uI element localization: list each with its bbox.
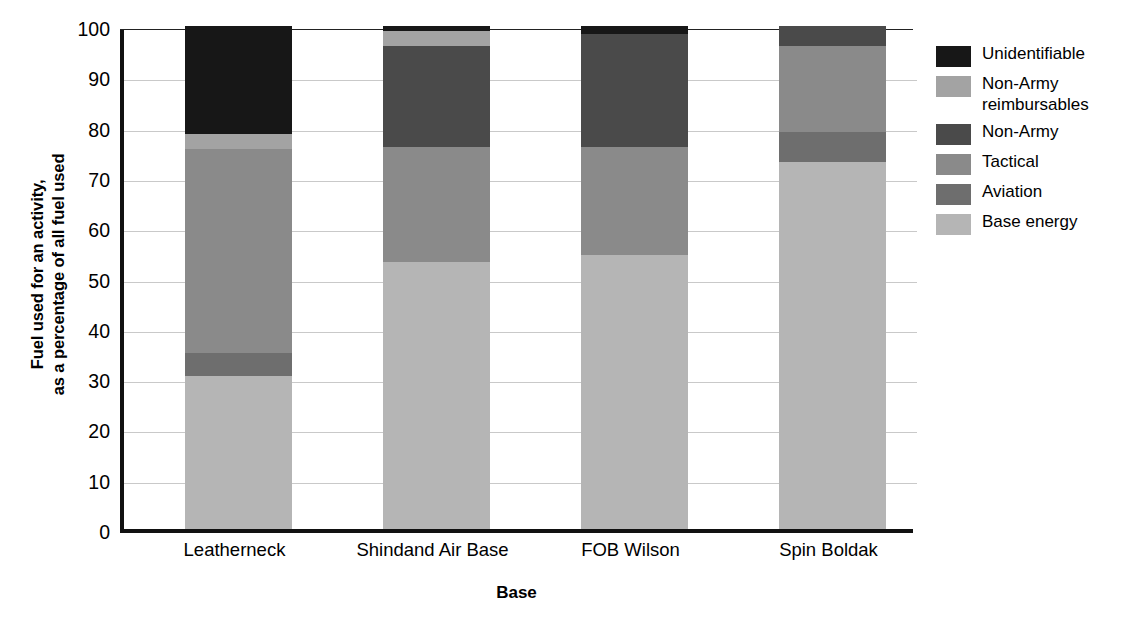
legend-swatch-icon [936, 214, 971, 235]
chart-legend: UnidentifiableNon-Army reimbursablesNon-… [936, 44, 1131, 242]
bar-segment-tactical[interactable] [383, 147, 490, 263]
bar-segment-unidentifiable[interactable] [581, 26, 688, 34]
bar-segment-base-energy[interactable] [185, 376, 292, 529]
y-tick-label: 90 [52, 70, 110, 90]
plot-area [120, 30, 913, 533]
bar-segment-unidentifiable[interactable] [185, 26, 292, 134]
bar-shindand-air-base[interactable] [383, 26, 490, 529]
y-tick-label: 10 [52, 473, 110, 493]
bar-segment-non-army[interactable] [779, 26, 886, 46]
y-tick-label: 80 [52, 121, 110, 141]
bar-segment-non-army-reimbursables[interactable] [383, 31, 490, 46]
legend-swatch-icon [936, 184, 971, 205]
x-tick-label: Shindand Air Base [339, 541, 526, 560]
legend-item-non-army[interactable]: Non-Army [936, 122, 1131, 145]
chart-root: Fuel used for an activity, as a percenta… [0, 0, 1133, 620]
bar-segment-tactical[interactable] [581, 147, 688, 255]
legend-swatch-icon [936, 76, 971, 97]
legend-item-unidentifiable[interactable]: Unidentifiable [936, 44, 1131, 67]
y-tick-label: 40 [52, 322, 110, 342]
y-tick-label: 50 [52, 272, 110, 292]
y-tick-label: 0 [52, 523, 110, 543]
x-tick-label: Spin Boldak [735, 541, 922, 560]
bar-segment-aviation[interactable] [185, 353, 292, 376]
bar-segment-unidentifiable[interactable] [383, 26, 490, 31]
bar-segment-base-energy[interactable] [383, 262, 490, 529]
bar-spin-boldak[interactable] [779, 26, 886, 529]
legend-label: Non-Army [982, 122, 1059, 143]
legend-label: Tactical [982, 152, 1039, 173]
bar-segment-aviation[interactable] [779, 132, 886, 162]
legend-item-base-energy[interactable]: Base energy [936, 212, 1131, 235]
x-axis-title: Base [120, 583, 913, 603]
legend-label: Unidentifiable [982, 44, 1085, 65]
legend-item-tactical[interactable]: Tactical [936, 152, 1131, 175]
bar-segment-base-energy[interactable] [779, 162, 886, 529]
bar-segment-non-army[interactable] [581, 34, 688, 147]
y-tick-label: 100 [52, 20, 110, 40]
y-tick-label: 30 [52, 372, 110, 392]
bar-fob-wilson[interactable] [581, 26, 688, 529]
x-tick-label: FOB Wilson [537, 541, 724, 560]
bar-segment-base-energy[interactable] [581, 255, 688, 529]
bar-leatherneck[interactable] [185, 26, 292, 529]
legend-swatch-icon [936, 154, 971, 175]
x-tick-label: Leatherneck [141, 541, 328, 560]
legend-swatch-icon [936, 46, 971, 67]
legend-item-non-army-reimbursables[interactable]: Non-Army reimbursables [936, 74, 1131, 115]
y-tick-label: 20 [52, 422, 110, 442]
y-tick-label: 60 [52, 221, 110, 241]
bar-segment-non-army[interactable] [383, 46, 490, 147]
legend-label: Non-Army reimbursables [982, 74, 1089, 115]
y-axis-title-line1: Fuel used for an activity, [28, 180, 46, 370]
legend-item-aviation[interactable]: Aviation [936, 182, 1131, 205]
y-tick-label: 70 [52, 171, 110, 191]
bar-segment-tactical[interactable] [779, 46, 886, 132]
legend-label: Base energy [982, 212, 1077, 233]
legend-swatch-icon [936, 124, 971, 145]
bar-segment-tactical[interactable] [185, 149, 292, 353]
bar-segment-non-army-reimbursables[interactable] [185, 134, 292, 149]
legend-label: Aviation [982, 182, 1042, 203]
